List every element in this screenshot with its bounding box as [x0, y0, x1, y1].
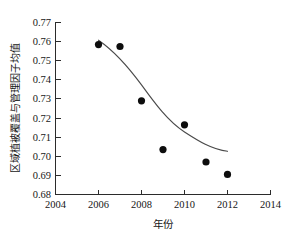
y-tick-label: 0.77 — [33, 17, 51, 28]
plot-area-background — [55, 22, 235, 194]
y-tick-label: 0.75 — [33, 55, 51, 66]
x-axis-tick-labels: 2004 2006 2008 2010 2012 2014 — [45, 199, 282, 210]
x-tick-label: 2012 — [217, 199, 238, 210]
x-axis-title: 年份 — [153, 218, 174, 230]
chart-figure: 0.77 0.76 0.75 0.74 0.73 0.72 0.71 0.70 … — [0, 0, 292, 248]
x-tick-label: 2004 — [45, 199, 67, 210]
y-tick-label: 0.74 — [33, 74, 52, 85]
x-tick-label: 2014 — [260, 199, 282, 210]
data-point — [138, 97, 145, 104]
y-tick-label: 0.69 — [33, 170, 51, 181]
data-point — [202, 158, 209, 165]
data-point — [159, 146, 166, 153]
y-axis-tick-labels: 0.77 0.76 0.75 0.74 0.73 0.72 0.71 0.70 … — [33, 17, 52, 200]
x-tick-label: 2008 — [131, 199, 152, 210]
scatter-plot-svg: 0.77 0.76 0.75 0.74 0.73 0.72 0.71 0.70 … — [0, 0, 292, 248]
y-tick-label: 0.73 — [33, 93, 51, 104]
y-tick-label: 0.71 — [33, 132, 51, 143]
y-tick-label: 0.70 — [33, 151, 51, 162]
data-point — [224, 171, 231, 178]
data-point — [181, 121, 188, 128]
data-point — [116, 43, 123, 50]
y-tick-label: 0.72 — [33, 113, 51, 124]
y-axis-title: 区域植被覆盖与管理因子均值 — [9, 43, 21, 173]
x-tick-label: 2006 — [88, 199, 109, 210]
data-point — [95, 41, 102, 48]
y-tick-label: 0.76 — [33, 36, 51, 47]
x-tick-label: 2010 — [174, 199, 195, 210]
